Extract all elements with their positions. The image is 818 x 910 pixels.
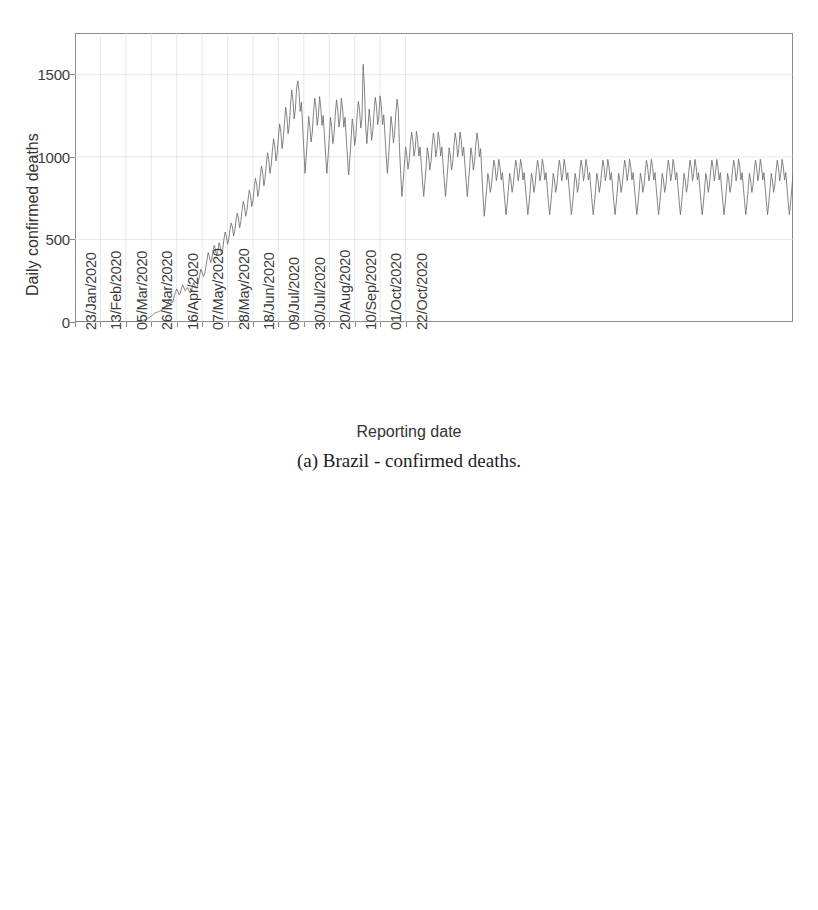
panel-a-caption: (a) Brazil - confirmed deaths. <box>0 450 818 472</box>
x-tick-mark <box>329 322 330 327</box>
y-tick-label: 500 <box>46 232 70 247</box>
x-tick-label: 30/Jul/2020 <box>312 257 328 330</box>
x-tick-mark <box>406 322 407 327</box>
x-tick-mark <box>278 322 279 327</box>
x-tick-mark <box>100 322 101 327</box>
x-axis-title-deaths: Reporting date <box>0 423 818 441</box>
y-tick-mark <box>70 157 75 158</box>
x-tick-mark <box>355 322 356 327</box>
x-tick-label: 20/Aug/2020 <box>337 250 353 330</box>
x-tick-mark <box>304 322 305 327</box>
plot-area-deaths: 05001000150023/Jan/202013/Feb/202005/Mar… <box>75 33 793 322</box>
x-tick-label: 23/Jan/2020 <box>83 252 99 330</box>
x-tick-mark <box>126 322 127 327</box>
x-tick-label: 01/Oct/2020 <box>388 253 404 330</box>
figure-two-panel-covid-brazil: Daily confirmed deaths 05001000150023/Ja… <box>0 0 818 910</box>
x-tick-label: 09/Jul/2020 <box>286 257 302 330</box>
x-tick-label: 28/May/2020 <box>236 248 252 330</box>
x-tick-mark <box>177 322 178 327</box>
x-tick-label: 13/Feb/2020 <box>108 251 124 330</box>
x-tick-mark <box>253 322 254 327</box>
x-tick-label: 26/Mar/2020 <box>159 251 175 330</box>
x-tick-label: 16/Apr/2020 <box>185 253 201 330</box>
x-tick-label: 18/Jun/2020 <box>261 252 277 330</box>
panel-brazil-confirmed-cases: Daily confirmed cases 050010001500200023… <box>0 480 818 910</box>
x-tick-mark <box>228 322 229 327</box>
deaths-series-svg <box>75 33 793 322</box>
y-tick-mark <box>70 239 75 240</box>
y-tick-label: 0 <box>62 315 70 330</box>
x-tick-label: 05/Mar/2020 <box>134 251 150 330</box>
x-tick-label: 10/Sep/2020 <box>363 250 379 330</box>
y-tick-label: 1000 <box>37 149 70 164</box>
panel-brazil-confirmed-deaths: Daily confirmed deaths 05001000150023/Ja… <box>0 0 818 470</box>
x-tick-label: 22/Oct/2020 <box>414 253 430 330</box>
x-tick-mark <box>151 322 152 327</box>
x-tick-mark <box>75 322 76 327</box>
x-tick-mark <box>202 322 203 327</box>
x-tick-mark <box>380 322 381 327</box>
x-tick-label: 07/May/2020 <box>210 248 226 330</box>
y-tick-label: 1500 <box>37 67 70 82</box>
y-tick-mark <box>70 74 75 75</box>
